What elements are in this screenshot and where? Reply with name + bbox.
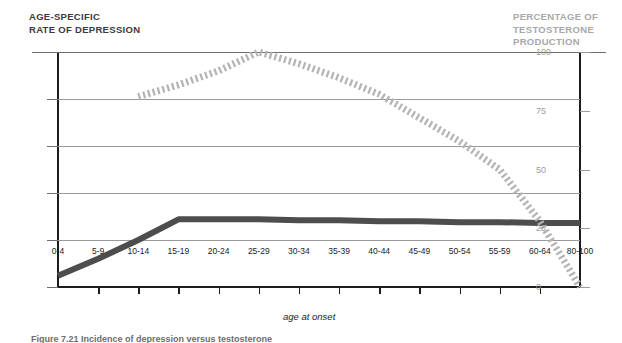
x-tick-mark: [138, 287, 139, 294]
x-tick-mark: [219, 287, 220, 294]
left-tick-mark: [47, 287, 58, 288]
x-tick-label: 0-4: [52, 246, 64, 256]
x-tick-label: 5-9: [92, 246, 104, 256]
right-tick-mark: [580, 52, 590, 53]
x-tick-label: 15-19: [168, 246, 190, 256]
right-tick-label: 0: [536, 282, 541, 292]
right-tick-label: 25: [536, 223, 546, 233]
x-tick-label: 60-64: [529, 246, 551, 256]
right-tick-mark: [580, 287, 590, 288]
x-tick-mark: [460, 287, 461, 294]
figure-caption: Figure 7.21 Incidence of depression vers…: [31, 334, 272, 343]
x-tick-label: 10-14: [127, 246, 149, 256]
x-tick-mark: [98, 287, 99, 294]
right-tick-label: 75: [536, 106, 546, 116]
x-tick-mark: [178, 287, 179, 294]
left-tick-mark: [47, 52, 58, 53]
testosterone-line-series: [138, 52, 580, 287]
x-tick-label: 50-54: [449, 246, 471, 256]
x-tick-mark: [379, 287, 380, 294]
right-tick-mark: [580, 228, 590, 229]
x-tick-label: 25-29: [248, 246, 270, 256]
left-tick-mark: [47, 240, 58, 241]
left-axis-title: AGE-SPECIFIC RATE OF DEPRESSION: [29, 11, 140, 36]
right-tick-label: 50: [536, 165, 546, 175]
right-tick-mark: [580, 111, 590, 112]
x-tick-label: 80-100: [567, 246, 593, 256]
x-tick-label: 55-59: [489, 246, 511, 256]
x-tick-label: 40-44: [368, 246, 390, 256]
left-tick-mark: [47, 146, 58, 147]
x-tick-label: 20-24: [208, 246, 230, 256]
x-tick-mark: [339, 287, 340, 294]
left-tick-mark: [47, 99, 58, 100]
x-tick-mark: [500, 287, 501, 294]
x-tick-mark: [299, 287, 300, 294]
right-axis-title: PERCENTAGE OF TESTOSTERONE PRODUCTION: [513, 11, 598, 49]
right-tick-label: 100: [536, 47, 551, 57]
x-tick-mark: [419, 287, 420, 294]
x-tick-label: 45-49: [409, 246, 431, 256]
x-tick-label: 35-39: [328, 246, 350, 256]
right-tick-mark: [580, 170, 590, 171]
left-tick-mark: [47, 193, 58, 194]
x-tick-mark: [259, 287, 260, 294]
x-tick-label: 30-34: [288, 246, 310, 256]
x-axis-label: age at onset: [283, 311, 335, 322]
figure-container: AGE-SPECIFIC RATE OF DEPRESSION PERCENTA…: [0, 0, 622, 343]
